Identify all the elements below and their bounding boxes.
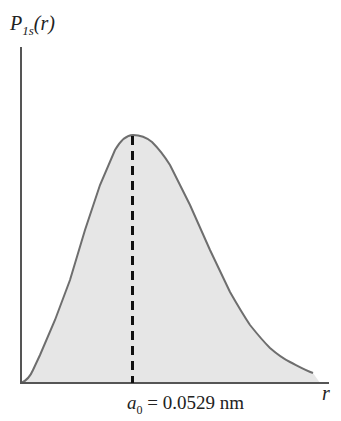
a0-marker-label: a0 = 0.0529 nm bbox=[127, 392, 244, 418]
plot-area bbox=[0, 0, 341, 421]
y-axis-label: P1s(r) bbox=[10, 12, 55, 39]
probability-fill bbox=[21, 135, 320, 383]
x-axis-label: r bbox=[322, 382, 330, 405]
